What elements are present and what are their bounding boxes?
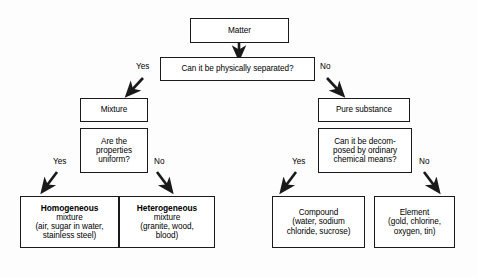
node-heterogeneous-line2: mixture (154, 213, 181, 222)
node-pure-substance-label: Pure substance (336, 105, 392, 114)
arrow-uniform-no (157, 172, 169, 188)
node-homogeneous-title: Homogeneous (41, 204, 99, 213)
arrow-separated-no (327, 78, 340, 92)
node-homogeneous-line4: stainless steel) (43, 231, 96, 240)
node-question-decomposed[interactable]: Can it be decom- posed by ordinary chemi… (318, 128, 412, 173)
arrow-separated-yes (130, 78, 143, 92)
node-element-line2: (gold, chlorine, (388, 217, 441, 226)
flowchart-canvas: Matter Can it be physically separated? Y… (0, 0, 477, 277)
node-question-decomposed-line3: chemical means? (334, 155, 397, 164)
node-matter[interactable]: Matter (190, 18, 289, 43)
node-question-decomposed-line2: posed by ordinary (333, 146, 397, 155)
arrow-decomposed-yes (284, 172, 296, 188)
node-homogeneous-line3: (air, sugar in water, (35, 222, 103, 231)
node-heterogeneous-line3: (granite, wood, (140, 222, 193, 231)
edge-label-separated-no: No (320, 63, 330, 71)
node-question-uniform-line2: properties (96, 146, 132, 155)
node-heterogeneous-mixture[interactable]: Heterogeneous mixture (granite, wood, bl… (119, 196, 215, 248)
node-question-uniform-line1: Are the (101, 137, 127, 146)
node-homogeneous-mixture[interactable]: Homogeneous mixture (air, sugar in water… (20, 196, 119, 248)
node-question-uniform[interactable]: Are the properties uniform? (80, 128, 148, 173)
node-element-line3: oxygen, tin) (394, 227, 436, 236)
node-compound-title: Compound (299, 208, 339, 217)
node-pure-substance[interactable]: Pure substance (318, 98, 410, 122)
node-question-uniform-line3: uniform? (98, 155, 129, 164)
node-matter-label: Matter (228, 26, 251, 35)
node-question-decomposed-line1: Can it be decom- (334, 137, 396, 146)
node-element[interactable]: Element (gold, chlorine, oxygen, tin) (374, 196, 455, 248)
node-homogeneous-line2: mixture (56, 213, 83, 222)
edge-label-separated-yes: Yes (136, 63, 149, 71)
node-compound-line2: (water, sodium (292, 217, 345, 226)
node-compound[interactable]: Compound (water, sodium chloride, sucros… (272, 196, 365, 248)
edge-label-decomposed-no: No (419, 158, 429, 166)
node-question-separated-label: Can it be physically separated? (181, 64, 293, 73)
node-compound-line3: chloride, sucrose) (287, 227, 351, 236)
edge-label-uniform-yes: Yes (53, 158, 66, 166)
arrow-decomposed-no (424, 172, 436, 188)
arrow-uniform-yes (45, 172, 57, 188)
node-question-separated[interactable]: Can it be physically separated? (160, 57, 315, 81)
node-heterogeneous-line4: blood) (156, 231, 178, 240)
node-heterogeneous-title: Heterogeneous (137, 204, 197, 213)
node-element-title: Element (400, 208, 430, 217)
edge-label-decomposed-yes: Yes (292, 158, 305, 166)
node-mixture-label: Mixture (101, 105, 128, 114)
node-mixture[interactable]: Mixture (80, 98, 148, 122)
edge-label-uniform-no: No (154, 158, 164, 166)
